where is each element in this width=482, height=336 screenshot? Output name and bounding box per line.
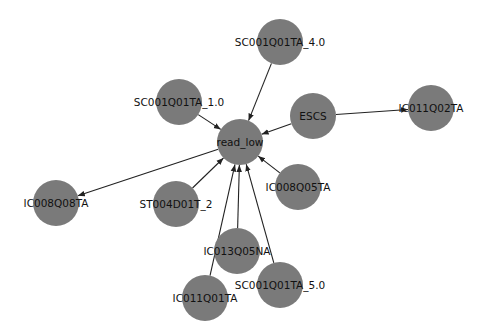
node-read_low: read_low <box>217 119 264 165</box>
node-SC001Q01TA_1.0: SC001Q01TA_1.0 <box>134 79 224 125</box>
node-label: SC001Q01TA_5.0 <box>235 279 325 292</box>
edge-ESCS-to-read_low <box>262 124 292 135</box>
edge-IC008Q05TA-to-read_low <box>258 156 280 173</box>
node-label: SC001Q01TA_4.0 <box>235 36 325 49</box>
node-IC008Q08TA: IC008Q08TA <box>24 180 90 226</box>
node-IC008Q05TA: IC008Q05TA <box>266 164 332 210</box>
edge-ESCS-to-IC011Q02TA <box>336 110 408 115</box>
node-IC011Q01TA: IC011Q01TA <box>173 275 239 321</box>
node-label: IC011Q01TA <box>173 292 239 304</box>
node-ST004D01T_2: ST004D01T_2 <box>140 181 213 227</box>
node-ESCS: ESCS <box>290 93 336 139</box>
node-IC011Q02TA: IC011Q02TA <box>399 85 465 131</box>
node-SC001Q01TA_4.0: SC001Q01TA_4.0 <box>235 19 325 65</box>
edge-read_low-to-IC008Q08TA <box>78 149 218 196</box>
node-label: IC008Q05TA <box>266 181 332 193</box>
edge-IC013Q05NA-to-read_low <box>238 165 240 228</box>
node-label: SC001Q01TA_1.0 <box>134 96 224 109</box>
node-label: IC011Q02TA <box>399 102 465 114</box>
edge-SC001Q01TA_1.0-to-read_low <box>198 115 221 130</box>
node-label: ESCS <box>299 110 327 122</box>
node-label: read_low <box>217 136 264 149</box>
node-label: IC013Q05NA <box>203 245 271 257</box>
node-label: ST004D01T_2 <box>140 198 213 211</box>
edge-SC001Q01TA_4.0-to-read_low <box>249 63 272 120</box>
node-label: IC008Q08TA <box>24 197 90 209</box>
nodes-layer: read_lowSC001Q01TA_4.0SC001Q01TA_1.0ESCS… <box>24 19 465 321</box>
network-graph: read_lowSC001Q01TA_4.0SC001Q01TA_1.0ESCS… <box>0 0 482 336</box>
edge-ST004D01T_2-to-read_low <box>193 158 224 188</box>
node-IC013Q05NA: IC013Q05NA <box>203 228 271 274</box>
